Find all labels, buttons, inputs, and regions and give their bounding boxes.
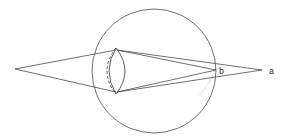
lens-accommodated-dashed bbox=[107, 48, 116, 94]
eyeball-outline bbox=[92, 9, 216, 133]
ray-to-a-bottom bbox=[117, 70, 262, 92]
incoming-ray-bottom bbox=[15, 69, 116, 92]
eye-diagram: b a bbox=[0, 0, 285, 138]
label-b: b bbox=[219, 66, 224, 76]
label-a: a bbox=[269, 66, 274, 76]
ray-to-b-top bbox=[117, 50, 216, 70]
lens-back-edge bbox=[109, 48, 116, 94]
lens-outline bbox=[116, 48, 125, 94]
ray-to-b-bottom bbox=[117, 70, 216, 92]
ray-to-a-top bbox=[117, 50, 262, 70]
incoming-ray-top bbox=[15, 50, 116, 69]
